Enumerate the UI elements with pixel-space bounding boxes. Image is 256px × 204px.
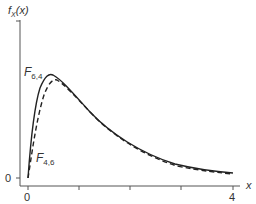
y-axis-label: fX(x) bbox=[8, 4, 29, 18]
x-ticks bbox=[28, 186, 233, 190]
label-f-4-6: F4,6 bbox=[36, 151, 55, 167]
y-tick-label-0: 0 bbox=[5, 172, 11, 184]
x-tick-label-4: 4 bbox=[229, 191, 235, 203]
curve-f-4-6 bbox=[28, 80, 233, 178]
curve-f-6-4 bbox=[28, 74, 233, 178]
x-tick-label-0: 0 bbox=[24, 191, 30, 203]
x-axis-label: x bbox=[245, 179, 252, 191]
label-f-6-4: F6,4 bbox=[24, 65, 43, 81]
f-distribution-chart: fX(x) x 0 4 0 F6,4 F4,6 bbox=[0, 0, 256, 204]
